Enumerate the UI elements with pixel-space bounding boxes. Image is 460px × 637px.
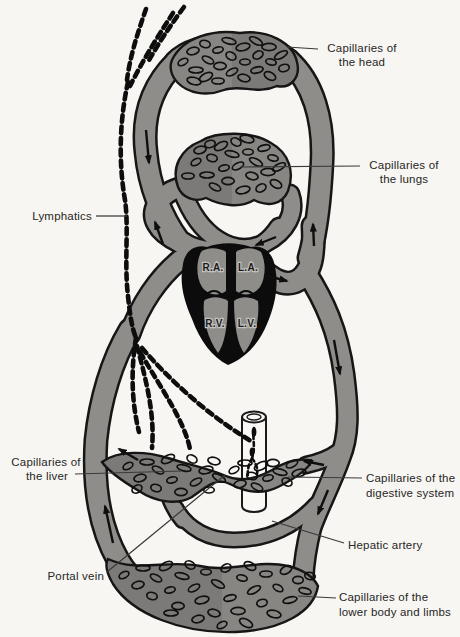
- portal-vein-label: Portal vein: [47, 570, 104, 582]
- liver-label-line1: Capillaries of: [11, 456, 81, 468]
- capillary-cell-icon: [267, 459, 279, 466]
- right-atrium-label: R.A.: [202, 262, 223, 273]
- diagram-canvas: R.A. L.A. R.V. L.V.: [0, 0, 460, 637]
- hepatic-artery-label: Hepatic artery: [348, 539, 422, 551]
- capillary-cell-icon: [207, 456, 221, 466]
- head-label-line2: the head: [339, 56, 385, 68]
- liver-label-line2: the liver: [26, 470, 68, 482]
- left-atrium-label: L.A.: [238, 262, 258, 273]
- tube-opening-icon: [242, 412, 266, 423]
- left-ventricle-label: L.V.: [238, 318, 257, 329]
- capillary-cell-icon: [228, 465, 240, 475]
- circulatory-system-diagram: R.A. L.A. R.V. L.V.: [0, 0, 460, 637]
- lower-body-label-line1: Capillaries of the: [339, 591, 428, 603]
- lymphatics-label: Lymphatics: [32, 210, 92, 222]
- digestive-label-line1: Capillaries of the: [366, 472, 455, 484]
- right-ventricle-label: R.V.: [205, 318, 225, 329]
- head-label-line1: Capillaries of: [327, 42, 397, 54]
- lymph-branch-to-tube: [142, 348, 251, 441]
- digestive-label-line2: digestive system: [366, 487, 454, 499]
- lungs-label-line1: Capillaries of: [369, 159, 439, 171]
- lungs-label-line2: the lungs: [380, 173, 429, 185]
- lower-body-label-line2: lower body and limbs: [339, 606, 451, 618]
- heart: R.A. L.A. R.V. L.V.: [182, 243, 277, 365]
- leader-digestive: [288, 477, 362, 478]
- flow-arrow-head-artery-up: [313, 224, 314, 246]
